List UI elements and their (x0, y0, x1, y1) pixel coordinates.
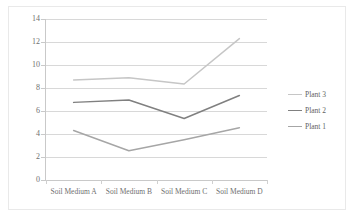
series-lines (46, 19, 267, 180)
y-axis-tick-8 (41, 88, 45, 89)
x-axis-ticks (46, 180, 267, 185)
y-axis-tick-2 (41, 157, 45, 158)
x-tick-2 (157, 180, 158, 184)
legend-label: Plant 1 (305, 122, 326, 131)
legend-swatch-icon (288, 126, 302, 127)
y-axis-tick-0 (41, 180, 45, 181)
x-axis-labels: Soil Medium ASoil Medium BSoil Medium CS… (46, 187, 267, 201)
legend-swatch-icon (288, 94, 302, 95)
x-category-label-3: Soil Medium D (212, 187, 267, 201)
x-category-label-0: Soil Medium A (46, 187, 101, 201)
legend-item-plant-1[interactable]: Plant 1 (288, 120, 350, 133)
y-axis-tick-10 (41, 65, 45, 66)
y-tick-label-12: 12 (16, 38, 40, 46)
line-chart-figure: 02468101214 Soil Medium ASoil Medium BSo… (0, 0, 355, 218)
x-category-label-1: Soil Medium B (101, 187, 156, 201)
y-tick-label-2: 2 (16, 153, 40, 161)
y-axis-tick-14 (41, 19, 45, 20)
y-axis-labels: 02468101214 (10, 19, 40, 180)
y-axis-tick-4 (41, 134, 45, 135)
series-line-plant-2 (74, 95, 240, 118)
plot-area (46, 19, 267, 180)
y-axis-tick-12 (41, 42, 45, 43)
legend-label: Plant 2 (305, 106, 326, 115)
x-tick-0 (46, 180, 47, 184)
y-tick-label-14: 14 (16, 15, 40, 23)
x-tick-1 (101, 180, 102, 184)
legend-swatch-icon (288, 110, 302, 111)
y-axis-tick-6 (41, 111, 45, 112)
chart-legend: Plant 3Plant 2Plant 1 (288, 88, 350, 136)
y-tick-label-10: 10 (16, 61, 40, 69)
y-tick-label-0: 0 (16, 176, 40, 184)
y-tick-label-6: 6 (16, 107, 40, 115)
x-tick-4 (267, 180, 268, 184)
series-line-plant-3 (74, 39, 240, 84)
legend-item-plant-3[interactable]: Plant 3 (288, 88, 350, 101)
legend-item-plant-2[interactable]: Plant 2 (288, 104, 350, 117)
x-category-label-2: Soil Medium C (157, 187, 212, 201)
y-tick-label-8: 8 (16, 84, 40, 92)
y-tick-label-4: 4 (16, 130, 40, 138)
legend-label: Plant 3 (305, 90, 326, 99)
x-tick-3 (212, 180, 213, 184)
series-line-plant-1 (74, 128, 240, 151)
